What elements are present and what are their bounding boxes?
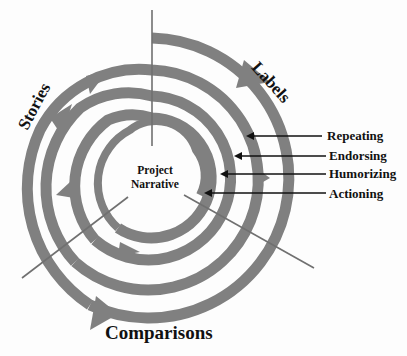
- center-label-line2: Narrative: [122, 177, 188, 191]
- center-label: Project Narrative: [122, 163, 188, 191]
- ring-label-actioning: Actioning: [329, 186, 383, 202]
- arrowhead-ring2-top: [86, 70, 108, 94]
- ring-label-endorsing: Endorsing: [329, 148, 387, 164]
- ring-label-humorizing: Humorizing: [329, 166, 396, 182]
- center-label-line1: Project: [122, 163, 188, 177]
- axis-label-comparisons: Comparisons: [105, 322, 213, 344]
- ring-label-repeating: Repeating: [327, 128, 383, 144]
- arrowhead-humorizing: [220, 170, 228, 178]
- arrowhead-endorsing: [234, 152, 242, 160]
